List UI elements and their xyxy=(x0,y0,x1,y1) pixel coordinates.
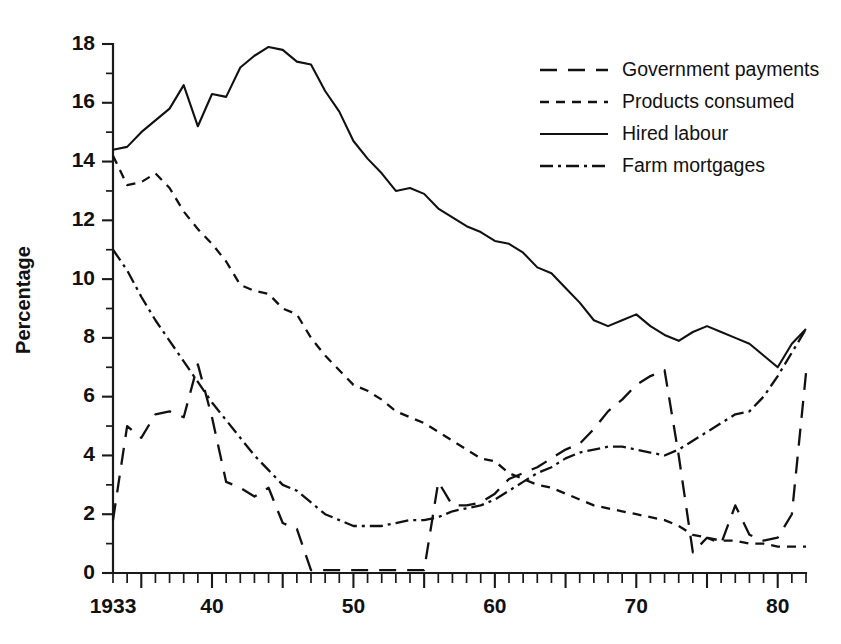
x-axis-tick-labels: 19334050607080 xyxy=(90,594,790,617)
series-line-farm-mortgages xyxy=(113,250,806,526)
series-line-products-consumed xyxy=(113,156,806,547)
y-tick-label: 10 xyxy=(72,266,95,289)
chart-container: 024681012141618 19334050607080 Percentag… xyxy=(0,0,841,644)
y-tick-label: 18 xyxy=(72,31,96,54)
x-tick-label: 70 xyxy=(625,594,648,617)
y-tick-label: 0 xyxy=(83,560,95,583)
y-tick-label: 2 xyxy=(83,501,95,524)
y-axis-tick-labels: 024681012141618 xyxy=(72,31,96,583)
legend-label-farm-mortgages: Farm mortgages xyxy=(622,154,765,176)
x-tick-label: 50 xyxy=(342,594,365,617)
y-axis-title: Percentage xyxy=(12,246,34,354)
x-tick-label: 40 xyxy=(200,594,223,617)
x-tick-label: 60 xyxy=(483,594,506,617)
y-tick-label: 16 xyxy=(72,89,95,112)
y-tick-label: 12 xyxy=(72,207,95,230)
y-tick-label: 14 xyxy=(72,148,96,171)
legend-label-products-consumed: Products consumed xyxy=(622,90,794,112)
chart-legend: Government paymentsProducts consumedHire… xyxy=(540,58,820,176)
y-tick-label: 8 xyxy=(83,324,95,347)
y-tick-label: 4 xyxy=(83,442,95,465)
x-tick-label: 1933 xyxy=(90,594,137,617)
y-tick-label: 6 xyxy=(83,383,95,406)
series-line-government-payments xyxy=(113,364,806,570)
legend-label-government-payments: Government payments xyxy=(622,58,820,80)
legend-label-hired-labour: Hired labour xyxy=(622,122,729,144)
x-tick-label: 80 xyxy=(766,594,789,617)
line-chart: 024681012141618 19334050607080 Percentag… xyxy=(0,0,841,644)
